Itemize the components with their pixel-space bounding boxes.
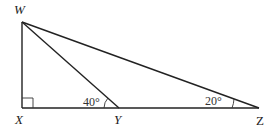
angle-arc-y [104, 98, 108, 108]
angle-label-z: 20° [205, 94, 222, 108]
segment-wz [22, 22, 259, 108]
point-label-w: W [14, 2, 26, 17]
point-label-x: X [14, 112, 24, 127]
angle-label-y: 40° [83, 95, 100, 109]
point-label-z: Z [256, 113, 264, 128]
point-label-y: Y [114, 112, 123, 127]
right-angle-marker [22, 98, 33, 108]
segment-wy [22, 22, 119, 108]
triangle-diagram: W X Y Z 40° 20° [0, 0, 280, 132]
angle-arc-z [232, 99, 234, 108]
